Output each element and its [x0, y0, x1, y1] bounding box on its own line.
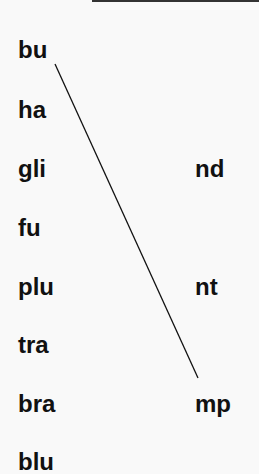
onset-item[interactable]: plu: [18, 275, 54, 299]
onset-item[interactable]: tra: [18, 333, 49, 357]
coda-item[interactable]: nd: [195, 157, 224, 181]
coda-item[interactable]: nt: [195, 275, 218, 299]
onset-item[interactable]: blu: [18, 450, 54, 474]
coda-item[interactable]: mp: [195, 392, 231, 416]
onset-item[interactable]: bu: [18, 38, 47, 62]
onset-item[interactable]: bra: [18, 392, 55, 416]
onset-item[interactable]: gli: [18, 157, 46, 181]
onset-item[interactable]: ha: [18, 98, 46, 122]
onset-item[interactable]: fu: [18, 216, 41, 240]
